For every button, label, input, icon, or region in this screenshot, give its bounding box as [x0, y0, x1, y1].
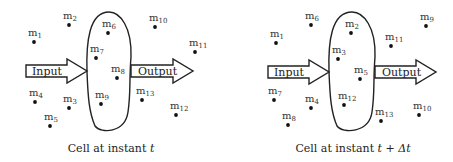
- particle-dot-icon: [358, 77, 362, 81]
- particle-label: m8: [282, 110, 296, 123]
- particle-m7: m7: [90, 43, 104, 60]
- particle-m3: m3: [332, 44, 346, 61]
- particle-m2: m2: [63, 10, 77, 27]
- particle-label: m7: [90, 43, 104, 56]
- particle-m1: m1: [28, 27, 42, 44]
- particle-label: m3: [63, 93, 77, 106]
- particle-m13: m13: [375, 106, 393, 123]
- particle-dot-icon: [106, 31, 110, 35]
- particle-dot-icon: [153, 25, 157, 29]
- particle-m5: m5: [354, 64, 368, 81]
- particle-label: m2: [63, 10, 77, 23]
- particle-dot-icon: [67, 106, 71, 110]
- particle-m9: m9: [420, 11, 434, 28]
- particle-dot-icon: [174, 113, 178, 117]
- particle-dot-icon: [33, 100, 37, 104]
- particle-dot-icon: [67, 23, 71, 27]
- particle-label: m9: [95, 89, 109, 102]
- particle-dot-icon: [32, 40, 36, 44]
- particle-dot-icon: [417, 113, 421, 117]
- particle-label: m5: [44, 111, 58, 124]
- particle-m11: m11: [189, 37, 207, 54]
- particle-m8: m8: [111, 63, 125, 80]
- particle-label: m6: [305, 10, 319, 23]
- particle-label: m11: [189, 37, 207, 50]
- particle-label: m8: [111, 63, 125, 76]
- particle-dot-icon: [272, 98, 276, 102]
- particle-m7: m7: [268, 85, 282, 102]
- particle-label: m10: [413, 100, 431, 113]
- particle-dot-icon: [94, 56, 98, 60]
- particle-m10: m10: [149, 12, 167, 29]
- particle-m1: m1: [270, 28, 284, 45]
- particle-label: m7: [268, 85, 282, 98]
- particle-label: m11: [385, 31, 403, 44]
- particle-m10: m10: [413, 100, 431, 117]
- panel-caption: Cell at instant t + Δt: [295, 142, 411, 155]
- particle-m4: m4: [29, 87, 43, 104]
- particle-dot-icon: [342, 103, 346, 107]
- particle-m3: m3: [63, 93, 77, 110]
- particle-m6: m6: [102, 18, 116, 35]
- particle-dot-icon: [336, 57, 340, 61]
- particle-label: m13: [136, 85, 154, 98]
- particle-label: m2: [345, 18, 359, 31]
- output-label: Output: [138, 65, 178, 78]
- particle-dot-icon: [115, 76, 119, 80]
- input-label: Input: [274, 66, 305, 79]
- particle-dot-icon: [140, 98, 144, 102]
- particle-label: m12: [170, 100, 188, 113]
- output-label: Output: [382, 66, 422, 79]
- particle-m12: m12: [338, 90, 356, 107]
- particle-label: m9: [420, 11, 434, 24]
- particle-label: m4: [29, 87, 43, 100]
- particle-label: m3: [332, 44, 346, 57]
- particle-dot-icon: [349, 31, 353, 35]
- particle-dot-icon: [379, 119, 383, 123]
- particle-m9: m9: [95, 89, 109, 106]
- particle-m6: m6: [305, 10, 319, 27]
- particle-label: m5: [354, 64, 368, 77]
- particle-dot-icon: [274, 41, 278, 45]
- particle-m11: m11: [385, 31, 403, 48]
- particle-dot-icon: [424, 24, 428, 28]
- particle-m13: m13: [136, 85, 154, 102]
- particle-dot-icon: [286, 123, 290, 127]
- particle-label: m12: [338, 90, 356, 103]
- particle-dot-icon: [309, 106, 313, 110]
- cell-boundary: [329, 12, 375, 131]
- particle-dot-icon: [99, 102, 103, 106]
- control-volume-diagram: InputOutputm1m2m3m4m5m6m7m8m9m10m11m12m1…: [0, 0, 453, 162]
- panel-caption: Cell at instant t: [68, 142, 155, 155]
- particle-label: m6: [102, 18, 116, 31]
- particle-dot-icon: [193, 50, 197, 54]
- particle-label: m4: [305, 93, 319, 106]
- particle-label: m10: [149, 12, 167, 25]
- particle-label: m1: [28, 27, 42, 40]
- particle-m12: m12: [170, 100, 188, 117]
- particle-dot-icon: [389, 44, 393, 48]
- particle-dot-icon: [48, 124, 52, 128]
- input-label: Input: [32, 65, 63, 78]
- particle-m2: m2: [345, 18, 359, 35]
- particle-label: m1: [270, 28, 284, 41]
- panel-t: InputOutputm1m2m3m4m5m6m7m8m9m10m11m12m1…: [26, 10, 207, 155]
- particle-m5: m5: [44, 111, 58, 128]
- panel-t_plus_dt: InputOutputm1m2m3m4m5m6m7m8m9m10m11m12m1…: [268, 10, 436, 155]
- particle-dot-icon: [309, 23, 313, 27]
- particle-m8: m8: [282, 110, 296, 127]
- particle-m4: m4: [305, 93, 319, 110]
- particle-label: m13: [375, 106, 393, 119]
